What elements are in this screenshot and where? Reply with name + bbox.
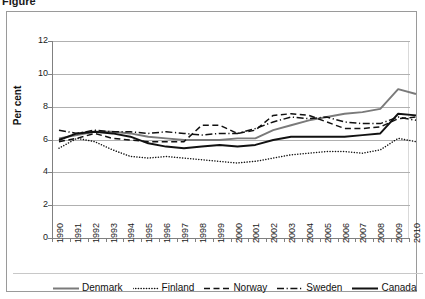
y-gridline <box>53 172 410 173</box>
x-axis-tick-label: 1992 <box>92 223 101 243</box>
x-axis-tick <box>177 238 178 242</box>
x-axis-tick-label: 1990 <box>56 223 65 243</box>
x-axis-tick <box>320 238 321 242</box>
x-axis-tick-label: 1994 <box>127 223 136 243</box>
legend-swatch-icon <box>352 284 378 293</box>
x-axis-tick <box>373 238 374 242</box>
x-axis-tick <box>195 238 196 242</box>
legend-item-sweden[interactable]: Sweden <box>277 283 342 293</box>
plot-area <box>52 41 409 238</box>
y-axis-tick <box>48 41 52 42</box>
y-gridline <box>53 74 410 75</box>
y-axis-tick <box>48 74 52 75</box>
y-gridline <box>53 205 410 206</box>
x-axis-tick-label: 1995 <box>145 223 154 243</box>
x-axis-tick <box>52 238 53 242</box>
y-axis-tick <box>48 205 52 206</box>
x-axis-tick <box>106 238 107 242</box>
x-axis-tick <box>213 238 214 242</box>
x-axis-tick-label: 2001 <box>252 223 261 243</box>
x-axis-tick <box>70 238 71 242</box>
x-axis-tick-label: 2000 <box>235 223 244 243</box>
y-axis-tick <box>48 172 52 173</box>
legend-item-canada[interactable]: Canada <box>352 283 416 293</box>
x-axis-tick-label: 2010 <box>413 223 422 243</box>
legend-label: Denmark <box>82 283 123 293</box>
x-axis-tick <box>284 238 285 242</box>
y-axis-title: Per cent <box>12 86 23 125</box>
x-axis-tick-label: 2003 <box>288 223 297 243</box>
x-axis-tick-label: 2009 <box>395 223 404 243</box>
x-axis-tick <box>338 238 339 242</box>
figure-title-partial: Figure <box>0 0 425 9</box>
legend-label: Finland <box>162 283 195 293</box>
legend-label: Sweden <box>306 283 342 293</box>
x-axis-tick-label: 1996 <box>163 223 172 243</box>
y-gridline <box>53 107 410 108</box>
x-axis-tick-label: 1993 <box>110 223 119 243</box>
x-axis-tick-label: 2002 <box>270 223 279 243</box>
legend-swatch-icon <box>53 284 79 293</box>
x-axis-tick-label: 2004 <box>306 223 315 243</box>
x-axis-tick <box>266 238 267 242</box>
x-axis-tick <box>302 238 303 242</box>
x-axis-tick <box>123 238 124 242</box>
y-axis-tick <box>48 238 52 239</box>
y-axis-tick <box>48 107 52 108</box>
legend-swatch-icon <box>277 284 303 293</box>
x-axis-tick-label: 1999 <box>217 223 226 243</box>
legend-item-denmark[interactable]: Denmark <box>53 283 123 293</box>
legend-item-norway[interactable]: Norway <box>204 283 267 293</box>
y-axis-tick-label: 6 <box>8 135 48 144</box>
x-axis-tick-label: 2006 <box>342 223 351 243</box>
x-axis-tick <box>159 238 160 242</box>
y-axis-tick <box>48 140 52 141</box>
x-axis-tick-label: 1991 <box>74 223 83 243</box>
chart-container: Figure 024681012 Per cent 19901991199219… <box>0 0 425 299</box>
legend-divider <box>13 273 423 274</box>
legend-swatch-icon <box>204 284 230 293</box>
y-axis-tick-label: 0 <box>8 233 48 242</box>
legend-label: Canada <box>381 283 416 293</box>
x-axis-tick-label: 2007 <box>359 223 368 243</box>
x-axis-tick-label: 1998 <box>199 223 208 243</box>
chart-frame: 024681012 Per cent 199019911992199319941… <box>6 11 417 292</box>
x-axis-tick <box>231 238 232 242</box>
x-axis-tick-label: 1997 <box>181 223 190 243</box>
x-axis-tick-label: 2008 <box>377 223 386 243</box>
x-axis-tick <box>141 238 142 242</box>
x-axis-tick <box>391 238 392 242</box>
x-axis-tick <box>248 238 249 242</box>
y-axis-labels: 024681012 <box>7 12 48 252</box>
x-axis-tick-label: 2005 <box>324 223 333 243</box>
x-axis-tick <box>88 238 89 242</box>
chart-legend: DenmarkFinlandNorwaySwedenCanada <box>53 280 416 296</box>
legend-label: Norway <box>233 283 267 293</box>
y-axis-tick-label: 2 <box>8 200 48 209</box>
y-axis-tick-label: 4 <box>8 167 48 176</box>
y-gridline <box>53 41 410 42</box>
x-axis-tick <box>355 238 356 242</box>
y-axis-tick-label: 10 <box>8 69 48 78</box>
legend-item-finland[interactable]: Finland <box>133 283 195 293</box>
legend-swatch-icon <box>133 284 159 293</box>
y-axis-tick-label: 12 <box>8 36 48 45</box>
y-gridline <box>53 140 410 141</box>
x-axis-tick <box>409 238 410 242</box>
